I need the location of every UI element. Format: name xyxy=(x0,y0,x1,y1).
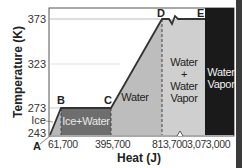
x-tick-395700: 395,700 xyxy=(95,138,131,150)
region-label-vapor-2: Vapor xyxy=(207,78,235,90)
point-label-c: C xyxy=(104,94,112,106)
region-label-water-mix-4: Vapor xyxy=(170,92,198,104)
x-tick-813700: 813,700 xyxy=(152,138,188,150)
region-label-water-mix-1: Water xyxy=(170,56,198,68)
point-label-a: A xyxy=(33,140,41,152)
region-label-water-mix-2: + xyxy=(181,68,187,80)
heating-curve-chart: 373 323 273 Ice 243 Temperature (K) 61,7… xyxy=(0,0,242,168)
x-tick-3073000: 3,073,000 xyxy=(187,138,231,150)
page-edge xyxy=(236,0,242,168)
x-axis-label: Heat (J) xyxy=(117,151,161,165)
y-label-ice: Ice xyxy=(31,114,46,126)
region-label-vapor-1: Water xyxy=(207,66,235,78)
x-tick-61700: 61,700 xyxy=(48,138,78,150)
point-label-b: B xyxy=(57,94,65,106)
region-label-ice-water: Ice+Water xyxy=(62,115,110,127)
y-tick-243: 243 xyxy=(28,127,46,139)
y-axis-label: Temperature (K) xyxy=(11,26,25,118)
y-tick-273: 273 xyxy=(28,102,46,114)
y-tick-323: 323 xyxy=(28,58,46,70)
region-label-water-mix-3: Water xyxy=(170,80,198,92)
point-label-e: E xyxy=(197,7,204,19)
y-tick-373: 373 xyxy=(28,13,46,25)
region-label-water: Water xyxy=(121,91,149,103)
point-label-d: D xyxy=(157,7,165,19)
